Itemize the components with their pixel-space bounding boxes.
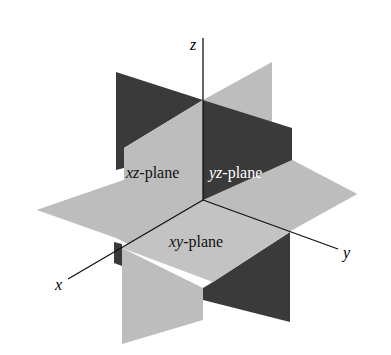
z-axis-label: z xyxy=(189,36,197,53)
x-axis-label: x xyxy=(54,276,62,293)
xz-plane-label: xz-plane xyxy=(125,164,179,182)
coordinate-planes-diagram: z x y xz-plane yz-plane xy-plane xyxy=(0,0,391,355)
xy-plane-back-right xyxy=(292,160,357,230)
xy-plane-label: xy-plane xyxy=(168,233,223,251)
y-axis-label: y xyxy=(341,244,351,262)
yz-plane-label: yz-plane xyxy=(207,164,262,182)
xz-plane-back-lower xyxy=(114,242,122,266)
